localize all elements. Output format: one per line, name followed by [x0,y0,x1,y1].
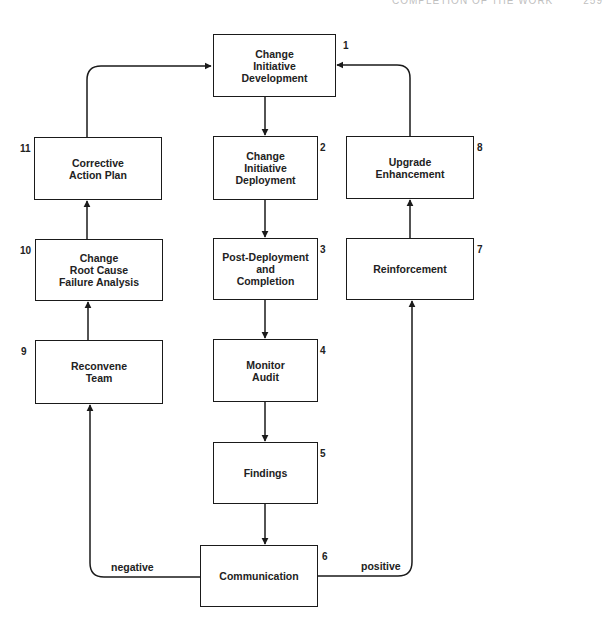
node-label: Reconvene Team [71,360,127,384]
node-number: 8 [477,142,483,153]
node-findings: Findings [213,442,318,504]
node-number: 11 [20,143,31,154]
node-number: 6 [322,551,328,562]
edge-label-negative: negative [111,561,154,573]
node-label: Upgrade Enhancement [376,156,445,180]
node-monitor-audit: Monitor Audit [213,339,318,402]
node-post-deployment-completion: Post-Deployment and Completion [213,238,318,300]
node-label: Corrective Action Plan [69,157,127,181]
node-label: Communication [219,570,298,582]
node-change-initiative-deployment: Change Initiative Deployment [213,136,318,200]
node-communication: Communication [200,545,318,607]
node-label: Findings [244,467,288,479]
node-number: 2 [320,142,326,153]
edge-6-7 [317,301,412,576]
page-number: 259 [583,0,603,6]
node-number: 4 [320,345,326,356]
node-label: Reinforcement [373,263,447,275]
node-reconvene-team: Reconvene Team [35,340,163,404]
node-number: 10 [20,245,31,256]
node-reinforcement: Reinforcement [346,238,474,300]
edge-11-1 [87,66,211,137]
node-number: 9 [21,346,27,357]
node-change-initiative-development: Change Initiative Development [213,34,336,97]
node-number: 7 [477,244,483,255]
node-root-cause-failure-analysis: Change Root Cause Failure Analysis [35,239,163,301]
node-number: 5 [320,448,326,459]
edge-8-1 [337,65,410,136]
node-label: Post-Deployment and Completion [222,251,308,287]
node-upgrade-enhancement: Upgrade Enhancement [346,136,474,199]
node-number: 1 [343,40,349,51]
node-corrective-action-plan: Corrective Action Plan [34,137,162,200]
edge-label-positive: positive [361,560,401,572]
node-label: Monitor Audit [246,359,285,383]
node-label: Change Initiative Development [242,48,308,84]
node-number: 3 [320,244,326,255]
edge-6-9 [90,405,200,577]
node-label: Change Initiative Deployment [235,150,295,186]
node-label: Change Root Cause Failure Analysis [59,252,139,288]
